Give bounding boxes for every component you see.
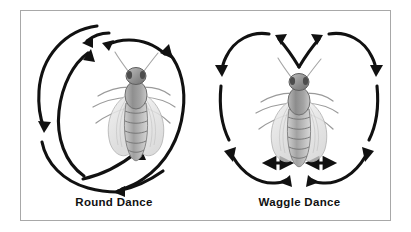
bee-eye	[127, 71, 132, 79]
arrow-icon	[329, 33, 376, 72]
round-dance-caption: Round Dance	[21, 196, 207, 208]
arrow-icon	[160, 44, 173, 59]
arrow-icon	[83, 152, 137, 179]
panel-round-dance: Round Dance	[21, 11, 207, 222]
arrow-icon	[220, 86, 229, 140]
bee-thorax	[125, 81, 147, 109]
waggle-dance-caption: Waggle Dance	[207, 196, 392, 208]
arrow-icon	[222, 33, 269, 72]
arrow-icon	[370, 65, 383, 77]
bee-icon	[93, 52, 175, 161]
arrow-icon	[42, 142, 117, 192]
arrow-icon	[275, 34, 287, 45]
arrow-icon	[233, 157, 286, 183]
arrow-icon	[38, 121, 51, 133]
arrow-icon	[265, 158, 275, 168]
waggle-dance-diagram	[207, 11, 392, 222]
arrow-icon	[279, 39, 299, 67]
arrow-icon	[107, 40, 165, 54]
round-dance-diagram	[21, 11, 207, 222]
figure-root: Round Dance	[0, 0, 411, 232]
arrow-icon	[58, 53, 88, 176]
figure-frame: Round Dance	[20, 10, 391, 221]
bee-thorax	[288, 87, 310, 115]
arrow-icon	[102, 40, 114, 51]
arrow-icon	[324, 158, 334, 168]
bee-eye	[303, 77, 308, 85]
arrow-icon	[215, 65, 228, 77]
arrow-icon	[312, 157, 365, 183]
bee-eye	[290, 77, 295, 85]
arrow-icon	[311, 34, 323, 45]
bee-eye	[140, 71, 145, 79]
arrow-icon	[369, 86, 378, 140]
bee-icon	[256, 58, 338, 167]
panel-waggle-dance: Waggle Dance	[207, 11, 392, 222]
arrow-icon	[299, 39, 319, 67]
round-dance-arrow-group	[39, 26, 184, 192]
